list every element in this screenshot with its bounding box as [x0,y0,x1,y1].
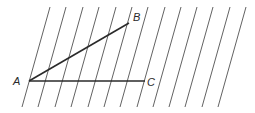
parallel-lines-angle-diagram: A B C [0,0,255,113]
parallel-line-10 [169,7,197,107]
parallel-line-13 [218,7,246,107]
parallel-line-5 [88,7,116,107]
parallel-line-4 [71,7,99,107]
parallel-line-2 [38,7,66,107]
point-label-A: A [12,75,20,87]
parallel-line-9 [153,7,181,107]
parallel-line-8 [137,7,165,107]
parallel-line-6 [104,7,132,107]
parallel-line-11 [185,7,213,107]
point-label-C: C [147,76,155,88]
point-label-B: B [133,11,140,23]
parallel-line-1 [22,7,50,107]
parallel-line-12 [202,7,230,107]
